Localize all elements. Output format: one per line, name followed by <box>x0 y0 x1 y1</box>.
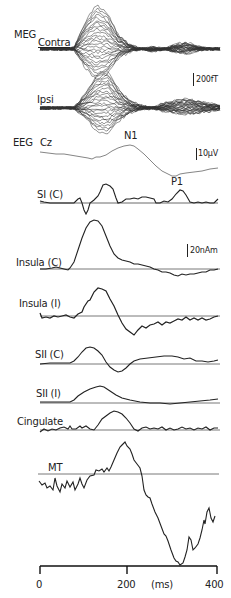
cingulate-trace <box>40 411 218 432</box>
tick-label-400: 400 <box>205 580 224 590</box>
tick-label-200: 200 <box>117 580 136 590</box>
label-p1: P1 <box>171 177 183 187</box>
label-insula-i: Insula (I) <box>19 299 61 309</box>
si-c-trace <box>40 184 218 214</box>
scale-label-10uv: 10µV <box>198 150 218 158</box>
label-insula-c: Insula (C) <box>16 258 62 268</box>
scale-bar-20nam <box>187 244 188 257</box>
label-mt: MT <box>48 463 62 473</box>
mt-trace <box>39 442 215 565</box>
label-cz: Cz <box>40 138 52 148</box>
label-sii-c: SII (C) <box>35 350 64 360</box>
scale-label-20nam: 20nAm <box>190 247 218 255</box>
label-contra: Contra <box>38 38 70 48</box>
scale-bar-200ft <box>193 73 194 86</box>
label-eeg: EEG <box>13 138 33 148</box>
sii-i-trace <box>40 386 218 404</box>
label-meg: MEG <box>14 30 36 40</box>
scale-label-200ft: 200fT <box>196 76 218 84</box>
label-si-c: SI (C) <box>37 190 63 200</box>
label-ipsi: Ipsi <box>37 95 54 105</box>
axis-unit-ms: (ms) <box>151 580 173 590</box>
label-sii-i: SII (I) <box>36 389 61 399</box>
scale-bar-10uv <box>196 148 197 160</box>
eeg-cz-trace <box>40 145 218 176</box>
insula-i-trace <box>40 288 218 335</box>
label-n1: N1 <box>124 131 137 141</box>
tick-label-0: 0 <box>36 580 42 590</box>
sii-c-trace <box>40 347 218 372</box>
label-cingulate: Cingulate <box>17 417 63 427</box>
